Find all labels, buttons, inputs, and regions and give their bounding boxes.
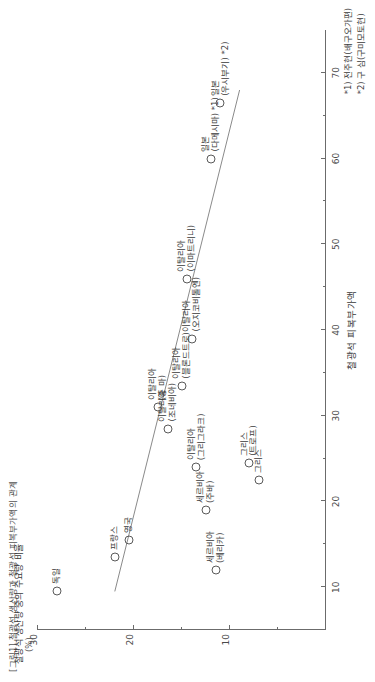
data-point[interactable] — [53, 587, 62, 596]
note-2: *2) 구 심(구미모토현) — [355, 8, 367, 94]
x-tick-label: 60 — [331, 153, 341, 164]
figure-canvas: [그림1] 철광석 생산량과 철광석 피복부가액의 관계 철광석 피복부가액 철… — [0, 0, 375, 682]
data-point[interactable] — [216, 98, 225, 107]
data-point[interactable] — [154, 403, 163, 412]
x-axis-title: 철광석 피복부가액 — [344, 290, 358, 370]
data-point-label: 세르비아(베리카) — [206, 531, 226, 563]
data-point-label: 이탈리아(그리그라크) — [187, 414, 207, 461]
data-point-label: 독일 — [52, 568, 62, 584]
x-tick-label: 70 — [331, 67, 341, 78]
data-point[interactable] — [192, 463, 201, 472]
rotated-figure-wrapper: [그림1] 철광석 생산량과 철광석 피복부가액의 관계 철광석 피복부가액 철… — [0, 0, 375, 682]
x-tick-label: 20 — [331, 496, 341, 507]
plot-area: 철광석 피복부가액 철광석 생산량 중의 수요량 비율 (%) 10203040… — [38, 30, 326, 630]
data-point[interactable] — [182, 274, 191, 283]
data-point[interactable] — [202, 506, 211, 515]
x-tick-label: 40 — [331, 324, 341, 335]
y-tick-label: 30 — [29, 634, 39, 650]
data-point[interactable] — [178, 381, 187, 390]
x-tick-label: 30 — [331, 410, 341, 421]
data-point[interactable] — [254, 476, 263, 485]
data-point-label: 이탈리아(오지코비톨엔) — [182, 277, 202, 332]
note-1: *1) 전주현(배구오가편) — [342, 8, 354, 94]
figure-notes: *1) 전주현(배구오가편) *2) 구 심(구미모토현) — [342, 8, 367, 94]
data-point[interactable] — [125, 536, 134, 545]
y-tick-label: 20 — [125, 634, 135, 650]
data-point[interactable] — [187, 334, 196, 343]
data-point[interactable] — [206, 154, 215, 163]
data-point-label: 이탈리아(중 마) — [148, 368, 168, 400]
x-tick-label: 50 — [331, 239, 341, 250]
x-tick-label: 10 — [331, 581, 341, 592]
data-point-label: 일본(우시부기) *2) — [211, 42, 231, 96]
data-point-label: 영국 — [124, 517, 134, 533]
data-point[interactable] — [211, 566, 220, 575]
y-tick-label: 10 — [221, 634, 231, 650]
data-point[interactable] — [163, 424, 172, 433]
data-point[interactable] — [110, 553, 119, 562]
data-point-label: 이탈리아(이마트리니) — [177, 225, 197, 272]
data-point-label: 프랑스 — [110, 526, 120, 550]
data-point-label: 그리스(트로프) — [239, 425, 259, 456]
data-point-label: 세르비아(주바) — [196, 471, 216, 503]
data-point[interactable] — [245, 458, 254, 467]
